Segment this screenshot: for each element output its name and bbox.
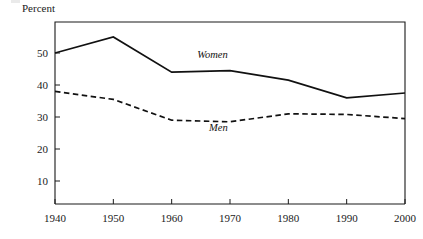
y-tick-label-20: 20 xyxy=(37,143,49,155)
x-tick-label-1970: 1970 xyxy=(219,212,242,224)
x-tick-label-1980: 1980 xyxy=(277,212,300,224)
series-line-women xyxy=(55,37,405,98)
y-tick-label-group: 1020304050 xyxy=(37,47,49,187)
x-tick-label-1990: 1990 xyxy=(336,212,359,224)
y-tick-label-40: 40 xyxy=(37,79,49,91)
plot-frame xyxy=(55,22,405,204)
series-annotation-men: Men xyxy=(208,122,228,133)
y-tick-label-10: 10 xyxy=(37,175,49,187)
y-tick-label-50: 50 xyxy=(37,47,49,59)
series-line-men xyxy=(55,91,405,121)
x-tick-label-1960: 1960 xyxy=(161,212,184,224)
tick-mark-group xyxy=(55,53,405,204)
y-tick-label-30: 30 xyxy=(37,111,49,123)
series-group xyxy=(55,37,405,122)
x-tick-label-group: 1940195019601970198019902000 xyxy=(44,212,417,224)
x-tick-label-1940: 1940 xyxy=(44,212,67,224)
line-chart-plot: 1020304050 1940195019601970198019902000 … xyxy=(0,0,423,239)
x-tick-label-2000: 2000 xyxy=(394,212,417,224)
series-annotation-women: Women xyxy=(197,49,228,60)
series-annotation-group: WomenMen xyxy=(197,49,228,134)
chart-container: Percent 1020304050 194019501960197019801… xyxy=(0,0,423,239)
x-tick-label-1950: 1950 xyxy=(102,212,125,224)
